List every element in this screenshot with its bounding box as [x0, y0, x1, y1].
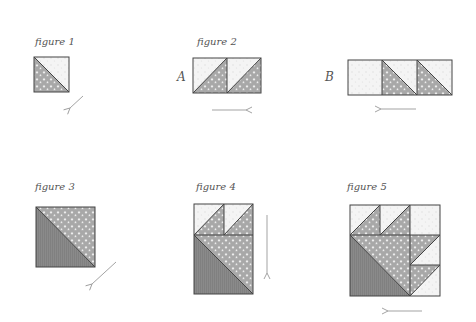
figure-1 [34, 57, 83, 108]
figure-3-caption: figure 3 [35, 181, 75, 192]
figure-2-row-b-piece-light [348, 60, 382, 95]
figure-2-caption: figure 2 [197, 36, 237, 47]
figure-2 [193, 58, 452, 110]
figure-5-piece-light [410, 205, 440, 235]
figure-1-caption: figure 1 [35, 36, 75, 47]
figure-3 [36, 207, 116, 284]
quilt-assembly-diagram: figure 1figure 2ABfigure 3figure 4figure… [0, 0, 476, 322]
figure-2-row-b [348, 60, 452, 109]
diagram-canvas [0, 0, 476, 322]
figure-1-press-direction-arrow-icon [70, 96, 83, 108]
figure-5-caption: figure 5 [347, 181, 387, 192]
figure-2-row-a [193, 58, 261, 110]
figure-4-caption: figure 4 [196, 181, 236, 192]
figure-5 [350, 205, 440, 311]
figure-3-press-direction-arrow-icon [92, 262, 116, 284]
figure-2-row-letter: A [177, 70, 186, 84]
figure-2-row-letter: B [325, 70, 334, 84]
figure-4 [194, 204, 267, 294]
